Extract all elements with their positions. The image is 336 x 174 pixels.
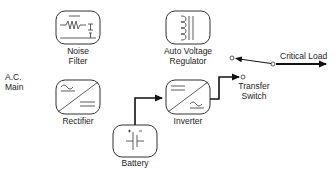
battery-block (113, 125, 157, 157)
ups-diagram: A.C. Main Noise Filter Auto Voltage Regu… (0, 0, 336, 174)
transfer-switch-label-line2: Switch (232, 92, 276, 102)
transformer-coil-icon (181, 16, 193, 40)
battery-label: Battery (113, 159, 157, 169)
inverter-label: Inverter (166, 117, 210, 127)
ac-main-line2: Main (5, 83, 23, 93)
switch-terminal-inverter (241, 75, 245, 79)
switch-terminal-bypass (230, 56, 234, 60)
rectifier-label-line1: Rectifier (56, 117, 100, 127)
noise-filter-label-line2: Filter (58, 57, 98, 67)
battery-label-line1: Battery (113, 159, 157, 169)
avr-label-line2: Regulator (158, 57, 218, 67)
diagram-graphics (0, 0, 336, 174)
noise-filter-block (56, 11, 100, 44)
ac-to-dc-icon (58, 82, 98, 112)
noise-filter-icon (60, 16, 96, 38)
battery-cell-icon (126, 130, 144, 151)
critical-load-label: Critical Load (280, 52, 327, 62)
inverter-label-line1: Inverter (166, 117, 210, 127)
avr-label: Auto Voltage Regulator (158, 47, 218, 66)
switch-pivot (271, 62, 275, 66)
ac-main-label: A.C. Main (5, 73, 23, 92)
dc-to-ac-icon (168, 82, 208, 112)
inverter-block (166, 80, 210, 114)
avr-block (166, 11, 210, 44)
rectifier-block (56, 80, 100, 114)
rectifier-label: Rectifier (56, 117, 100, 127)
noise-filter-label: Noise Filter (58, 47, 98, 66)
battery-to-inverter-connector (135, 98, 162, 125)
switch-lever (236, 59, 271, 64)
transfer-switch-label: Transfer Switch (232, 82, 276, 101)
transfer-switch (230, 56, 275, 79)
